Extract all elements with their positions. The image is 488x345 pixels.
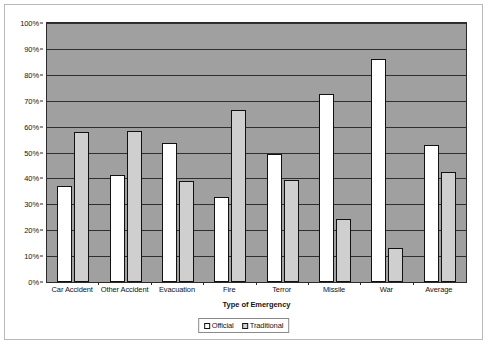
y-axis-tick-label: 90%: [24, 44, 39, 53]
y-axis-tick-label: 30%: [24, 200, 39, 209]
y-axis-tick-mark: [40, 100, 43, 101]
x-axis-tick-label: Other Accident: [101, 285, 149, 294]
chart-legend: OfficialTraditional: [198, 318, 290, 333]
y-axis-tick-mark: [40, 204, 43, 205]
x-axis-tick-mark: [308, 282, 309, 285]
y-axis-tick-label: 100%: [20, 19, 39, 28]
x-axis-tick-label: Missile: [323, 285, 345, 294]
y-axis-tick-mark: [40, 282, 43, 283]
y-axis-tick-mark: [40, 126, 43, 127]
x-axis-tick-label: Evacuation: [159, 285, 195, 294]
y-axis-tick-label: 40%: [24, 174, 39, 183]
y-axis-tick-label: 80%: [24, 70, 39, 79]
x-axis-tick-mark: [413, 282, 414, 285]
x-axis-tick-label: Terror: [272, 285, 291, 294]
bars-layer: [47, 23, 466, 282]
x-axis-tick-label: Fire: [223, 285, 236, 294]
y-axis-tick-label: 70%: [24, 96, 39, 105]
plot-area: [46, 22, 467, 283]
y-axis-tick-label: 20%: [24, 226, 39, 235]
x-axis-tick-label: War: [380, 285, 393, 294]
x-axis-title: Type of Emergency: [46, 300, 467, 309]
chart-frame: 100%90%80%70%60%50%40%30%20%10%0% Car Ac…: [4, 4, 483, 340]
y-axis-tick-label: 60%: [24, 122, 39, 131]
y-axis: 100%90%80%70%60%50%40%30%20%10%0%: [5, 22, 43, 283]
legend-label: Traditional: [250, 321, 284, 330]
bar-group: [47, 23, 466, 282]
legend-swatch-icon: [204, 323, 210, 329]
bar-traditional: [441, 172, 456, 282]
y-axis-tick-mark: [40, 152, 43, 153]
y-axis-tick-label: 50%: [24, 148, 39, 157]
y-axis-tick-label: 10%: [24, 252, 39, 261]
y-axis-tick-mark: [40, 178, 43, 179]
y-axis-tick-mark: [40, 256, 43, 257]
x-axis-tick-label: Average: [425, 285, 452, 294]
x-axis-tick-mark: [151, 282, 152, 285]
y-axis-tick-mark: [40, 48, 43, 49]
legend-entry: Official: [204, 321, 234, 330]
y-axis-tick-label: 0%: [28, 278, 39, 287]
x-axis-tick-mark: [203, 282, 204, 285]
y-axis-tick-mark: [40, 230, 43, 231]
bar-official: [424, 145, 439, 282]
x-axis-tick-mark: [98, 282, 99, 285]
y-axis-tick-mark: [40, 23, 43, 24]
x-axis-tick-mark: [360, 282, 361, 285]
legend-entry: Traditional: [242, 321, 284, 330]
y-axis-tick-mark: [40, 74, 43, 75]
x-axis-tick-label: Car Accident: [52, 285, 93, 294]
x-axis: Car AccidentOther AccidentEvacuationFire…: [46, 285, 467, 299]
legend-label: Official: [212, 321, 234, 330]
legend-swatch-icon: [242, 323, 248, 329]
x-axis-tick-mark: [256, 282, 257, 285]
